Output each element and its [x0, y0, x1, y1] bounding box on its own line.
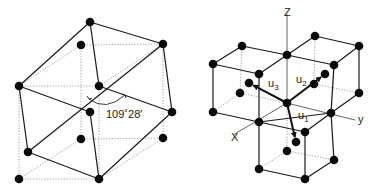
atom: [15, 82, 24, 91]
edge: [287, 36, 315, 55]
atom: [301, 175, 310, 184]
atom: [292, 138, 301, 147]
atom: [86, 108, 95, 117]
atom: [168, 108, 177, 117]
right-atoms: [209, 32, 364, 184]
hidden-edge: [19, 45, 81, 86]
edge: [287, 55, 334, 65]
edge: [90, 22, 99, 86]
hidden-edge: [314, 84, 359, 93]
atom: [310, 80, 319, 89]
atom: [24, 148, 33, 157]
atom: [255, 118, 264, 127]
atom: [77, 41, 86, 50]
x-axis-label: X: [231, 131, 239, 143]
edge: [259, 169, 305, 179]
atom: [95, 82, 104, 91]
atom: [283, 51, 292, 60]
atom: [283, 99, 292, 108]
atom: [15, 175, 24, 184]
atom: [159, 40, 168, 49]
edge: [213, 46, 242, 64]
edge: [19, 86, 90, 112]
hidden-edge: [19, 139, 81, 179]
edge: [315, 36, 359, 46]
edge: [213, 64, 259, 74]
edge: [163, 44, 172, 112]
tetrahedral-angle-diagram: 109˚28′: [15, 18, 177, 184]
atom: [327, 109, 336, 118]
arc-arrow-icon: [87, 96, 92, 99]
atom: [86, 18, 95, 27]
coordinate-axes: [233, 14, 355, 135]
atom: [238, 42, 247, 51]
z-axis-label: Z: [284, 6, 291, 18]
edge: [19, 22, 90, 86]
bond-angle-arc: [89, 95, 125, 105]
atom: [255, 165, 264, 174]
edge: [259, 55, 287, 74]
edge: [259, 122, 305, 132]
hidden-edge: [240, 93, 287, 103]
hidden-edge: [314, 36, 315, 84]
atom: [330, 61, 339, 70]
edge: [90, 22, 163, 44]
atom: [283, 147, 292, 156]
atom: [330, 156, 339, 165]
atom: [209, 108, 218, 117]
edge: [213, 112, 259, 122]
atom: [77, 135, 86, 144]
y-axis-label: y: [358, 113, 364, 125]
edge: [305, 160, 334, 179]
edge: [331, 93, 359, 113]
u1-vector: [287, 103, 295, 137]
hidden-edge: [259, 151, 287, 169]
hidden-edge: [99, 44, 163, 86]
edge: [90, 112, 99, 179]
hidden-edge: [213, 93, 240, 112]
edge: [331, 65, 334, 113]
atom: [209, 60, 218, 69]
tetrahedron-edges: [19, 22, 172, 179]
u1-label: u1: [298, 109, 309, 124]
left-atoms: [15, 18, 177, 184]
atom: [321, 70, 330, 79]
diamond-lattice-diagram: Z y X u3 u2 u1: [209, 6, 364, 183]
atom: [301, 128, 310, 137]
edge: [99, 112, 172, 179]
u2-label: u2: [296, 73, 307, 88]
edge: [331, 113, 334, 160]
hidden-edge: [99, 138, 163, 179]
atom: [311, 32, 320, 41]
edge: [334, 46, 359, 65]
edge: [28, 152, 99, 179]
atom: [355, 42, 364, 51]
bond-angle-label: 109˚28′: [106, 108, 142, 120]
u3-label: u3: [268, 77, 279, 92]
atom: [355, 89, 364, 98]
edge: [242, 46, 287, 55]
edge: [19, 86, 28, 152]
crystal-structure-figure: 109˚28′ Z y X u3 u2 u1: [0, 0, 377, 191]
atom: [159, 134, 168, 143]
atom: [255, 70, 264, 79]
atom: [236, 89, 245, 98]
atom: [95, 175, 104, 184]
hidden-edge: [287, 151, 334, 160]
atom: [245, 79, 254, 88]
